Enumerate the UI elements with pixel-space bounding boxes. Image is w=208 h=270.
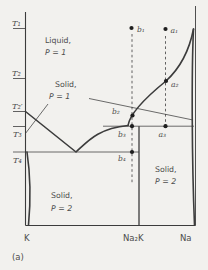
- x-label-Na2K: Na₂K: [123, 233, 144, 243]
- na-solvus-curve: [192, 29, 194, 225]
- point-b1-dot: [129, 26, 133, 30]
- x-label-K: K: [24, 233, 30, 243]
- solid-p1-leader-left: [26, 104, 48, 133]
- region-solid-p2-left-line1: Solid,: [51, 191, 72, 200]
- label-T2: T₂: [12, 68, 21, 78]
- region-solid-p2-left-line2: P = 2: [51, 204, 72, 213]
- solid-p1-leader-right: [89, 99, 193, 121]
- point-a3-dot: [163, 124, 167, 128]
- region-liquid-line1: Liquid,: [45, 36, 71, 45]
- x-label-Na: Na: [180, 233, 192, 243]
- figure-caption: (a): [12, 252, 24, 262]
- label-T1: T₁: [12, 18, 21, 28]
- label-b3: b₃: [118, 130, 126, 139]
- point-b4-dot: [130, 150, 134, 154]
- label-T2-prime: T₂′: [12, 101, 23, 111]
- phase-diagram-figure: T₁ T₂ T₂′ T₃ T₄ Liquid, P = 1 Solid, P =…: [0, 0, 208, 270]
- label-b4: b₄: [118, 154, 126, 163]
- na-side-liquidus-curve: [128, 29, 194, 126]
- point-a2-dot: [164, 79, 168, 83]
- point-a1-dot: [163, 27, 167, 31]
- point-b3-dot: [130, 124, 134, 128]
- label-T3: T₃: [13, 129, 22, 139]
- region-liquid-line2: P = 1: [45, 48, 66, 57]
- label-b1: b₁: [137, 25, 145, 34]
- region-solid-p1-line1: Solid,: [55, 80, 76, 89]
- label-a3: a₃: [159, 130, 167, 139]
- region-solid-p2-right-line1: Solid,: [155, 165, 176, 174]
- label-a1: a₁: [171, 26, 179, 35]
- phase-diagram-canvas: T₁ T₂ T₂′ T₃ T₄ Liquid, P = 1 Solid, P =…: [0, 0, 208, 270]
- y-axis-ticks: [13, 29, 26, 127]
- region-solid-p1-line2: P = 1: [49, 92, 70, 101]
- region-solid-p2-right-line2: P = 2: [155, 177, 176, 186]
- label-a2: a₂: [171, 80, 179, 89]
- label-T4: T₄: [13, 155, 22, 165]
- k-side-liquidus-curve: [26, 112, 129, 153]
- point-b2-dot: [130, 113, 134, 117]
- label-b2: b₂: [112, 107, 120, 116]
- k-solvus-curve: [27, 152, 30, 225]
